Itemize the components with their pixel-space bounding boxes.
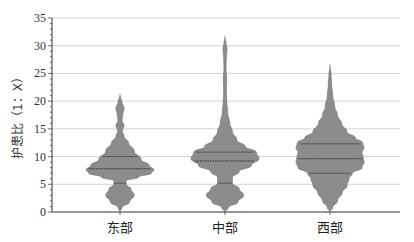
y-tick-label: 20 xyxy=(34,94,46,108)
y-tick-label: 30 xyxy=(34,39,46,53)
y-tick-label: 15 xyxy=(34,122,46,136)
x-category-label: 东部 xyxy=(107,220,133,235)
x-axis-labels: 东部中部西部 xyxy=(107,220,343,235)
violin-body xyxy=(191,37,259,212)
violin-body xyxy=(296,66,364,212)
y-axis-ticks: 05101520253035 xyxy=(34,11,46,219)
violin-west xyxy=(296,64,364,212)
violin-central xyxy=(191,35,259,212)
y-tick-label: 35 xyxy=(34,11,46,25)
y-tick-label: 25 xyxy=(34,66,46,80)
y-tick-label: 5 xyxy=(40,177,46,191)
violin-chart: 05101520253035 东部中部西部 护患比（1：X） xyxy=(0,0,414,242)
y-axis-title: 护患比（1：X） xyxy=(11,71,25,159)
violins xyxy=(86,35,364,212)
y-tick-label: 10 xyxy=(34,150,46,164)
x-category-label: 西部 xyxy=(317,220,343,235)
violin-east xyxy=(86,94,154,212)
x-category-label: 中部 xyxy=(212,220,238,235)
y-tick-label: 0 xyxy=(40,205,46,219)
violin-body xyxy=(86,96,154,212)
